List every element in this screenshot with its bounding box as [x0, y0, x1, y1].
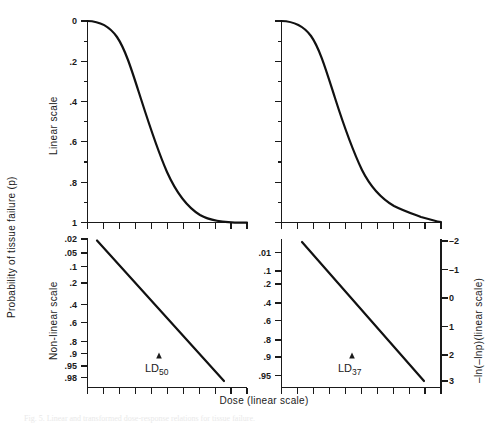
bottom-right-ytick-label: .6 — [263, 316, 271, 326]
bottom-right-right-ytick-label: 1 — [449, 322, 454, 332]
panel-top-left: 0 .2 .4 .6 .8 1 Linear scale — [48, 16, 247, 228]
bottom-left-ytick-label: .05 — [64, 248, 77, 258]
bottom-right-ytick-label: .2 — [263, 279, 271, 289]
bottom-right-ytick-label: .01 — [258, 248, 271, 258]
panel-top-right — [275, 21, 441, 229]
bottom-right-right-ytick-label: –2 — [449, 236, 459, 246]
bottom-right-line — [302, 242, 424, 381]
bottom-right-ytick-label: .4 — [263, 298, 271, 308]
bottom-left-ytick-label: .2 — [69, 278, 77, 288]
bottom-right-ytick-label: .8 — [263, 335, 271, 345]
bottom-right-ytick-label: .95 — [258, 371, 271, 381]
figure-caption: Fig. 5. Linear and transformed dose-resp… — [24, 414, 494, 423]
bottom-right-right-ytick-label: 3 — [449, 376, 454, 386]
top-left-ytick-label: 0 — [72, 16, 77, 26]
bottom-right-right-ytick-label: 2 — [449, 350, 454, 360]
panel-bottom-right: .01 .1 .2 .4 .6 .8 .9 .95 –2 –1 0 1 2 3 — [258, 236, 484, 393]
top-left-curve — [88, 21, 248, 223]
figure-svg: Probability of tissue failure (p) 0 .2 .… — [0, 0, 504, 423]
top-left-axes — [88, 21, 248, 223]
ld37-label-subscript: 37 — [352, 367, 362, 377]
bottom-left-ytick-label: .9 — [69, 349, 77, 359]
top-left-ytick-label: .6 — [69, 137, 77, 147]
figure-container: Probability of tissue failure (p) 0 .2 .… — [0, 0, 504, 423]
bottom-left-ytick-label: .98 — [64, 373, 77, 383]
bottom-left-ytick-label: .1 — [69, 262, 77, 272]
bottom-left-ytick-label: .4 — [69, 300, 77, 310]
top-left-ytick-label: .8 — [69, 178, 77, 188]
bottom-left-ytick-label: .02 — [64, 234, 77, 244]
bottom-right-right-ytick-label: –1 — [449, 265, 459, 275]
bottom-left-y-axis-name: Non-linear scale — [48, 281, 59, 360]
bottom-right-right-ytick-label: 0 — [449, 293, 454, 303]
bottom-left-axes — [88, 239, 248, 388]
shared-y-axis-label: Probability of tissue failure (p) — [6, 176, 17, 318]
shared-x-axis-label: Dose (linear scale) — [219, 395, 308, 406]
ld37-label: LD — [338, 362, 352, 374]
top-left-ytick-label: .2 — [69, 57, 77, 67]
ld50-label: LD — [145, 362, 159, 374]
bottom-right-ytick-label: .9 — [263, 352, 271, 362]
top-right-axes — [282, 21, 442, 223]
bottom-right-right-axis-name: –ln(–lnp)(linear scale) — [473, 278, 484, 383]
ld50-label-subscript: 50 — [159, 367, 169, 377]
bottom-left-ytick-label: .95 — [64, 361, 77, 371]
bottom-left-ytick-label: .8 — [69, 337, 77, 347]
top-left-ytick-label: 1 — [72, 218, 77, 228]
bottom-right-ytick-label: .1 — [263, 266, 271, 276]
bottom-left-ytick-label: .6 — [69, 318, 77, 328]
bottom-right-axes — [282, 239, 442, 388]
panel-bottom-left: .02 .05 .1 .2 .4 .6 .8 .9 .95 .98 Non-li… — [48, 234, 247, 393]
bottom-left-line — [97, 241, 224, 382]
top-left-ytick-label: .4 — [69, 97, 77, 107]
ld50-marker-triangle — [156, 353, 162, 359]
top-right-curve — [282, 21, 442, 222]
ld37-marker-triangle — [349, 353, 355, 359]
top-left-y-axis-name: Linear scale — [48, 96, 59, 155]
